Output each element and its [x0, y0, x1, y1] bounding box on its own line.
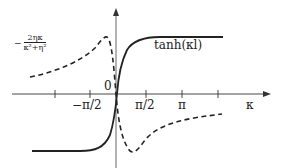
x-axis-label: κ: [246, 98, 254, 112]
dashed-formula-label: − 2ηκ κ²+η²: [14, 33, 46, 52]
minus-sign: −: [14, 38, 22, 48]
formula-numerator: 2ηκ: [24, 33, 47, 43]
origin-label: 0: [104, 79, 112, 93]
tick-label-pi: π: [178, 98, 186, 112]
tick-label-half-pi: π/2: [135, 98, 155, 112]
x-axis-arrow-icon: [263, 91, 271, 97]
tanh-label: tanh(κl): [154, 38, 202, 52]
tick-label-neg-half-pi: −π/2: [72, 98, 102, 112]
plot-area: [0, 0, 281, 168]
y-axis-arrow-icon: [113, 8, 119, 16]
formula-denominator: κ²+η²: [24, 43, 47, 52]
